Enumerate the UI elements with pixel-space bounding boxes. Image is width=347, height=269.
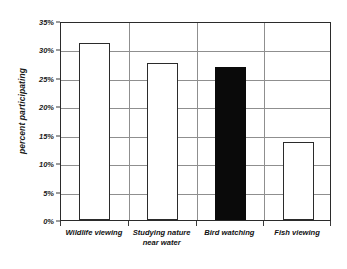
y-axis-tick-label: 20% xyxy=(39,103,54,112)
x-axis-category-label-line: near water xyxy=(128,238,196,248)
x-axis-tick-mark xyxy=(330,221,331,226)
x-axis-category-label: Bird watching xyxy=(196,228,264,238)
y-axis-tick-label: 0% xyxy=(43,217,54,226)
bars xyxy=(61,23,330,220)
y-axis-tick-labels: 35%30%25%20%15%10%5%0% xyxy=(28,22,54,221)
y-axis-tick-label: 15% xyxy=(39,131,54,140)
x-axis-tick-mark xyxy=(196,221,197,226)
x-axis-category-labels: Wildlife viewingStudying naturenear wate… xyxy=(60,228,331,262)
x-axis-category-label-line: Bird watching xyxy=(196,228,264,238)
x-axis-tick-mark xyxy=(60,221,61,226)
x-axis-category-label-line: Wildlife viewing xyxy=(60,228,128,238)
x-axis-category-label: Fish viewing xyxy=(263,228,331,238)
x-axis-tick-mark xyxy=(263,221,264,226)
x-axis-category-label: Studying naturenear water xyxy=(128,228,196,248)
y-axis-tick-label: 30% xyxy=(39,46,54,55)
plot-area xyxy=(60,22,331,221)
bar-chart: percent participating 35%30%25%20%15%10%… xyxy=(0,0,347,269)
y-axis-tick-label: 5% xyxy=(43,188,54,197)
y-axis-tick-label: 10% xyxy=(39,160,54,169)
y-axis-tick-label: 35% xyxy=(39,18,54,27)
bar xyxy=(79,43,110,220)
bar xyxy=(283,142,314,220)
y-axis-tick-label: 25% xyxy=(39,74,54,83)
bar xyxy=(147,63,178,220)
x-axis-tick-mark xyxy=(128,221,129,226)
x-axis-category-label: Wildlife viewing xyxy=(60,228,128,238)
x-axis-category-label-line: Fish viewing xyxy=(263,228,331,238)
y-axis-title-text: percent participating xyxy=(17,68,27,154)
x-axis-category-label-line: Studying nature xyxy=(128,228,196,238)
bar xyxy=(215,67,246,221)
x-axis-tick-marks xyxy=(60,221,331,226)
